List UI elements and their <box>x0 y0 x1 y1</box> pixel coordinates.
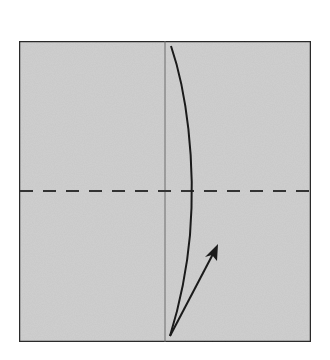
diagram-svg <box>0 0 330 360</box>
origami-diagram <box>0 0 330 360</box>
